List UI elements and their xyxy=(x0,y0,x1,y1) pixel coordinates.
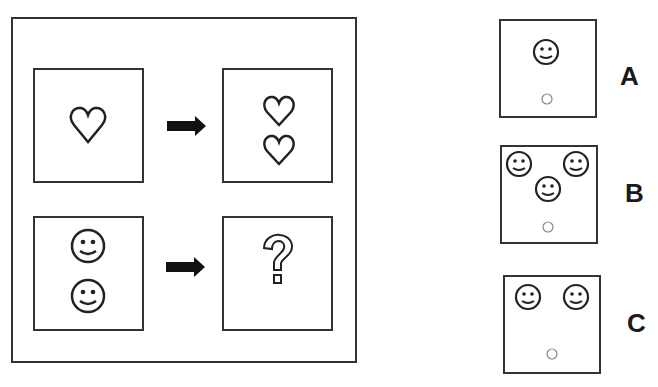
option-b-label: B xyxy=(625,178,644,209)
smiley-icon xyxy=(564,152,588,176)
smiley-icon xyxy=(507,152,531,176)
option-c-box[interactable] xyxy=(503,275,601,374)
question-output-box xyxy=(222,216,333,331)
option-a-label: A xyxy=(620,61,639,92)
option-a-box[interactable] xyxy=(499,19,597,118)
option-b-box[interactable] xyxy=(500,145,598,244)
smiley-icon xyxy=(534,40,558,64)
heart-icon xyxy=(35,70,142,181)
small-circle-icon xyxy=(542,94,552,104)
smiley-icon xyxy=(564,285,588,309)
example-input-box xyxy=(33,68,144,183)
small-circle-icon xyxy=(543,222,553,232)
question-input-box xyxy=(33,216,144,331)
question-mark-icon xyxy=(224,218,331,329)
heart-icon xyxy=(264,97,293,125)
smiley-icon xyxy=(536,177,560,201)
small-circle-icon xyxy=(547,349,557,359)
arrow-right-icon xyxy=(166,257,206,277)
smiley-icon xyxy=(72,280,104,312)
smiley-icon xyxy=(72,230,104,262)
option-c-label: C xyxy=(627,308,646,339)
example-output-box xyxy=(222,68,333,183)
heart-icon xyxy=(264,136,293,164)
arrow-right-icon xyxy=(167,116,207,136)
smiley-icon xyxy=(516,285,540,309)
